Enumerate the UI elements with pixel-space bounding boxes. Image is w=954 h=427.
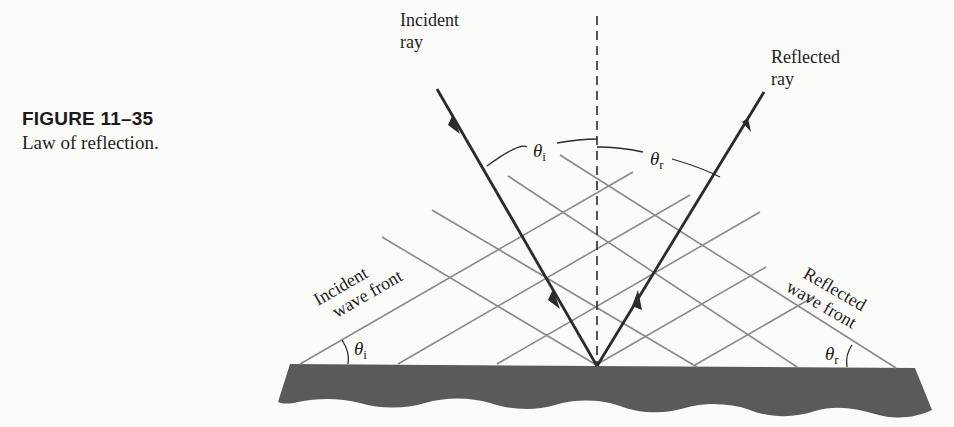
reflected-wave-front-label: Reflected wave front	[783, 259, 870, 332]
theta-i-top-label: θi	[533, 140, 546, 164]
theta-r-top-label: θr	[650, 148, 664, 172]
theta-r-arc-left	[597, 147, 643, 152]
theta-r-bottom-arc	[847, 345, 852, 367]
reflection-diagram: Incident ray Reflected ray θi θr θi θr I…	[0, 0, 954, 427]
incident-ray-label: Incident	[400, 10, 459, 30]
reflected-ray-label: Reflected	[771, 47, 840, 67]
reflected-ray-label-line2: ray	[771, 69, 794, 89]
theta-i-bottom-arc	[342, 340, 348, 364]
theta-r-bottom-label: θr	[825, 343, 839, 367]
theta-i-bottom-label: θi	[354, 338, 367, 362]
reflected-wave-fronts	[382, 155, 896, 368]
theta-i-arc	[487, 146, 527, 166]
theta-i-arc-right	[557, 139, 597, 143]
reflected-ray	[597, 92, 764, 366]
incident-wave-front-label: Incident wave front	[310, 248, 406, 326]
incident-ray-label-line2: ray	[400, 32, 423, 52]
reflecting-surface	[278, 364, 932, 417]
